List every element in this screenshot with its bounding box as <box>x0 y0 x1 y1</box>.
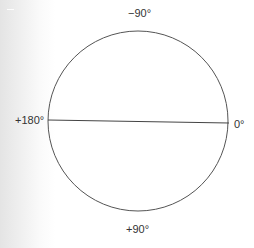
label-plus-90: +90° <box>126 223 149 235</box>
label-minus-90: −90° <box>128 7 151 19</box>
label-plus-180: +180° <box>15 114 44 126</box>
diameter-line <box>48 120 229 123</box>
label-zero: 0° <box>234 118 245 130</box>
angle-diagram: −90° +180° 0° +90° <box>0 0 254 248</box>
edge-mark <box>7 9 14 10</box>
